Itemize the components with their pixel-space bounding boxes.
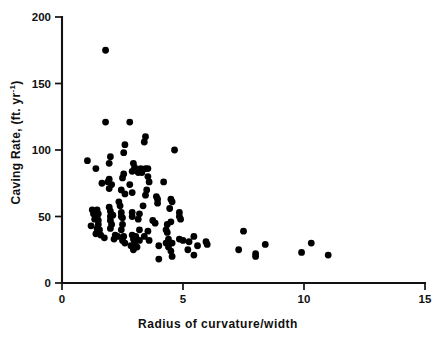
data-point [99,180,106,187]
data-point [119,214,126,221]
data-point [122,190,129,197]
y-tick-label-100: 100 [32,144,51,156]
data-point [130,246,137,253]
data-point [171,147,178,154]
data-point [136,226,143,233]
data-point [107,225,114,232]
data-point [88,222,95,229]
data-point [240,228,247,235]
data-point [120,149,127,156]
y-axis-title-suffix: ) [9,80,23,84]
data-point [142,192,149,199]
data-point [169,253,176,260]
data-point [122,141,129,148]
data-point [325,252,332,259]
data-point [126,181,133,188]
data-point [155,256,162,263]
data-point [141,139,148,146]
data-point [94,229,101,236]
data-point [146,237,153,244]
data-point [168,218,175,225]
y-axis-title-exponent: -1 [8,85,17,93]
data-point [169,198,176,205]
data-point [146,179,153,186]
y-tick-label-200: 200 [32,11,51,23]
y-axis-tick-labels: 050100150200 [32,11,51,289]
axes [62,17,425,283]
data-point [129,168,136,175]
data-point [106,185,113,192]
data-point [166,205,173,212]
x-tick-label-15: 15 [419,293,432,305]
data-point [204,241,211,248]
x-tick-label-10: 10 [298,293,311,305]
data-points [84,47,332,263]
data-point [235,246,242,253]
data-point [190,233,197,240]
x-axis-title: Radius of curvature/width [0,317,436,331]
data-point [308,240,315,247]
data-point [252,253,259,260]
y-axis-title-text: Caving Rate, (ft. yr [9,92,23,204]
data-point [107,153,114,160]
data-point [119,175,126,182]
data-point [92,165,99,172]
data-point [164,229,171,236]
data-point [184,246,191,253]
data-point [152,220,159,227]
data-point [140,202,147,209]
data-point [262,241,269,248]
data-point [186,238,193,245]
data-point [84,157,91,164]
data-point [106,160,113,167]
data-point [102,119,109,126]
y-tick-label-50: 50 [38,211,51,223]
y-axis-title-wrap: Caving Rate, (ft. yr-1) [4,0,26,285]
data-point [298,249,305,256]
data-point [154,200,161,207]
data-point [155,242,162,249]
data-point [109,212,116,219]
data-point [129,213,136,220]
data-point [122,240,129,247]
data-point [102,47,109,54]
data-point [145,165,152,172]
data-point [177,216,184,223]
x-axis-tick-labels: 051015 [59,293,432,305]
y-tick-label-150: 150 [32,78,51,90]
data-point [101,234,108,241]
data-point [126,119,133,126]
data-point [129,189,136,196]
data-point [135,216,142,223]
plot-canvas: 050100150200 051015 [0,0,436,337]
data-point [119,221,126,228]
y-tick-label-0: 0 [45,277,51,289]
data-point [190,252,197,259]
data-point [194,242,201,249]
scatter-plot-figure: 050100150200 051015 Caving Rate, (ft. yr… [0,0,436,337]
data-point [117,202,124,209]
data-point [160,179,167,186]
y-axis-title: Caving Rate, (ft. yr-1) [8,80,23,204]
data-point [111,236,118,243]
data-point [135,169,142,176]
x-tick-label-0: 0 [59,293,65,305]
data-point [180,237,187,244]
x-tick-label-5: 5 [180,293,187,305]
